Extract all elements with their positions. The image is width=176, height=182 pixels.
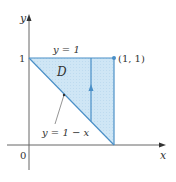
x-axis-arrow-icon <box>159 143 166 148</box>
leader-dot <box>63 94 65 96</box>
point-label: (1, 1) <box>118 53 145 64</box>
top-boundary-label: y = 1 <box>52 44 80 55</box>
leader-line <box>55 95 64 124</box>
x-axis-label: x <box>160 149 167 162</box>
diagonal-boundary-label: y = 1 − x <box>41 127 89 138</box>
region-label: D <box>56 65 67 79</box>
point-1-1 <box>112 56 116 60</box>
origin-label: 0 <box>20 150 26 161</box>
y-axis-arrow-icon <box>27 14 32 21</box>
y-axis-label: y <box>19 12 27 25</box>
y-tick-1-label: 1 <box>19 53 25 64</box>
region-diagram: y x 0 1 y = 1 (1, 1) D y = 1 − x <box>0 0 176 182</box>
